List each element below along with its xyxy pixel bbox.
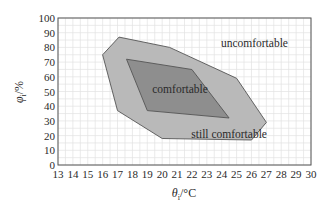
y-tick-label: 60 — [44, 71, 56, 83]
chart-svg: 131415161718192021222324252627282930 010… — [0, 0, 331, 209]
y-tick-label: 80 — [44, 41, 56, 53]
y-tick-label: 90 — [44, 27, 56, 39]
y-tick-label: 70 — [44, 56, 56, 68]
x-tick-label: 24 — [216, 168, 228, 180]
y-tick-label: 100 — [39, 12, 56, 24]
x-tick-label: 18 — [127, 168, 139, 180]
y-tick-label: 0 — [50, 159, 56, 171]
y-tick-label: 30 — [44, 115, 56, 127]
x-tick-label: 16 — [97, 168, 109, 180]
x-tick-label: 25 — [231, 168, 243, 180]
x-tick-label: 28 — [276, 168, 288, 180]
y-tick-label: 40 — [44, 100, 56, 112]
x-tick-label: 27 — [261, 168, 273, 180]
y-tick-label: 50 — [44, 86, 56, 98]
y-axis-label: φi/% — [12, 81, 28, 103]
annotation-uncomfortable: uncomfortable — [221, 37, 288, 49]
x-tick-label: 29 — [291, 168, 303, 180]
comfort-chart: 131415161718192021222324252627282930 010… — [0, 0, 331, 209]
x-tick-label: 19 — [142, 168, 154, 180]
x-tick-label: 30 — [306, 168, 318, 180]
x-axis-label: θi/°C — [172, 186, 196, 202]
y-tick-labels: 0102030405060708090100 — [39, 12, 56, 171]
x-tick-label: 22 — [186, 168, 197, 180]
x-tick-label: 21 — [172, 168, 183, 180]
annotation-still-comfortable: still comfortable — [191, 128, 267, 140]
y-tick-label: 10 — [44, 144, 56, 156]
annotation-comfortable: comfortable — [152, 83, 208, 95]
x-tick-labels: 131415161718192021222324252627282930 — [53, 168, 318, 180]
x-tick-label: 26 — [246, 168, 258, 180]
x-tick-label: 17 — [112, 168, 124, 180]
x-tick-label: 14 — [67, 168, 79, 180]
x-tick-label: 15 — [82, 168, 94, 180]
x-tick-label: 20 — [157, 168, 169, 180]
y-tick-label: 20 — [44, 130, 56, 142]
x-tick-label: 23 — [201, 168, 213, 180]
